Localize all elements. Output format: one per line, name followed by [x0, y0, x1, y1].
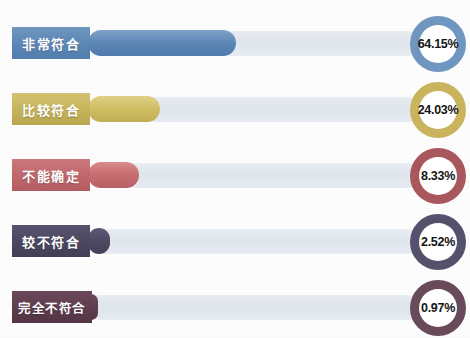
- value-label: 64.15%: [418, 37, 459, 51]
- chart-row-label: 较不符合: [12, 225, 90, 257]
- bar-track: [88, 228, 420, 254]
- value-label: 8.33%: [421, 169, 455, 183]
- chart-row-label-text: 比较符合: [22, 100, 80, 119]
- chart-row-label-text: 完全不符合: [18, 298, 86, 317]
- value-label: 2.52%: [421, 235, 455, 249]
- value-label: 0.97%: [421, 301, 455, 315]
- chart-row-label-text: 不能确定: [22, 166, 80, 185]
- chart-row: 比较符合 24.03%: [0, 82, 470, 136]
- bar-track: [88, 294, 420, 320]
- chart-row-label: 比较符合: [12, 93, 90, 125]
- value-donut: 0.97%: [410, 280, 466, 336]
- chart-row-label-text: 非常符合: [22, 34, 80, 53]
- value-donut: 8.33%: [410, 148, 466, 204]
- bar-fill: [88, 96, 160, 122]
- chart-row-label: 非常符合: [12, 27, 90, 59]
- value-donut: 64.15%: [410, 16, 466, 72]
- bar-fill: [88, 228, 110, 254]
- value-label: 24.03%: [418, 103, 459, 117]
- chart-row-label: 不能确定: [12, 159, 90, 191]
- bar-fill: [88, 162, 139, 188]
- horizontal-bar-chart: 非常符合 64.15% 比较符合 24.03% 不能确定 8.33%: [0, 0, 470, 338]
- chart-row: 较不符合 2.52%: [0, 214, 470, 268]
- chart-row-label: 完全不符合: [12, 291, 92, 323]
- bar-fill: [88, 30, 236, 56]
- chart-row-label-text: 较不符合: [22, 232, 80, 251]
- chart-row: 非常符合 64.15%: [0, 16, 470, 70]
- chart-row: 完全不符合 0.97%: [0, 280, 470, 334]
- value-donut: 24.03%: [410, 82, 466, 138]
- chart-row: 不能确定 8.33%: [0, 148, 470, 202]
- value-donut: 2.52%: [410, 214, 466, 270]
